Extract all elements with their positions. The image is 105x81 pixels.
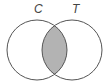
set-t-label: T (72, 2, 81, 16)
set-c-label: C (34, 2, 43, 16)
venn-diagram: C T (0, 0, 105, 81)
